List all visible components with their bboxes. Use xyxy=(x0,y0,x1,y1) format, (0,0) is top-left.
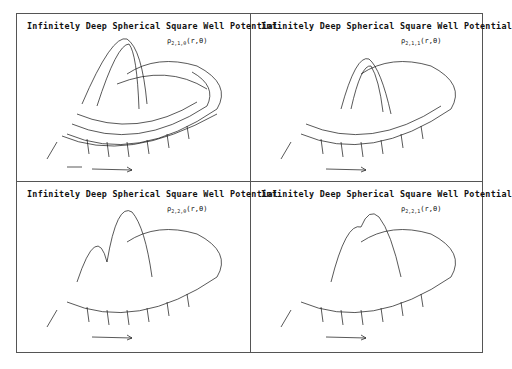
surface-plot xyxy=(17,182,250,349)
surface-plot xyxy=(17,14,250,181)
panel-top-left: Infinitely Deep Spherical Square Well Po… xyxy=(17,14,250,181)
surface-plot xyxy=(251,182,484,349)
panel-top-right: Infinitely Deep Spherical Square Well Po… xyxy=(251,14,484,181)
figure-frame: Infinitely Deep Spherical Square Well Po… xyxy=(16,13,483,353)
panel-bottom-left: Infinitely Deep Spherical Square Well Po… xyxy=(17,182,250,349)
panel-bottom-right: Infinitely Deep Spherical Square Well Po… xyxy=(251,182,484,349)
surface-plot xyxy=(251,14,484,181)
